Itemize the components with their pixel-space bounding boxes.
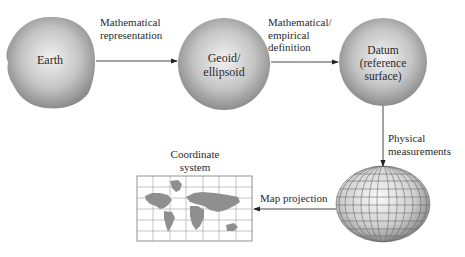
edge-label-geoid-datum-line1: Mathematical/ — [268, 16, 332, 29]
edge-label-datum-globe-line1: Physical — [388, 132, 451, 145]
earth-label: Earth — [20, 54, 80, 67]
edge-label-geoid-datum-line3: definition — [268, 41, 332, 54]
datum-label-line1: Datum — [343, 44, 423, 57]
edge-label-earth-geoid: Mathematical representation — [100, 16, 162, 41]
edge-label-earth-geoid-line1: Mathematical — [100, 16, 162, 29]
datum-label-line2: (reference — [343, 57, 423, 70]
edge-label-datum-globe-line2: measurements — [388, 145, 451, 158]
edge-label-globe-map: Map projection — [260, 192, 328, 205]
map-title: Coordinate system — [150, 148, 240, 173]
map-title-line1: Coordinate — [150, 148, 240, 161]
edge-label-geoid-datum-line2: empirical — [268, 29, 332, 42]
edge-label-globe-map-line1: Map projection — [260, 192, 328, 205]
map-title-line2: system — [150, 161, 240, 174]
globe-icon — [330, 166, 440, 242]
geoid-label: Geoid/ ellipsoid — [188, 51, 260, 79]
world-map — [137, 176, 252, 241]
diagram-canvas — [0, 0, 465, 257]
edge-label-earth-geoid-line2: representation — [100, 29, 162, 42]
edge-label-geoid-datum: Mathematical/ empirical definition — [268, 16, 332, 54]
datum-label-line3: surface) — [343, 70, 423, 83]
geoid-label-line2: ellipsoid — [188, 65, 260, 79]
edge-label-datum-globe: Physical measurements — [388, 132, 451, 157]
geoid-label-line1: Geoid/ — [188, 51, 260, 65]
datum-label: Datum (reference surface) — [343, 44, 423, 83]
